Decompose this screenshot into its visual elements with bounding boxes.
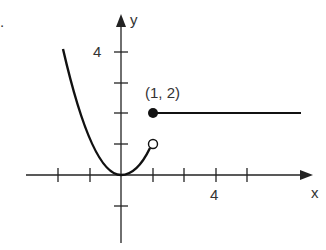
x-axis-label: x: [311, 184, 319, 201]
x-tick-label: 4: [210, 186, 218, 203]
parabola-curve: [63, 49, 150, 175]
stray-dot: .: [0, 13, 4, 30]
y-axis-arrow-icon: [116, 14, 126, 27]
point-label: (1, 2): [145, 84, 180, 101]
open-circle-marker: [149, 140, 158, 149]
closed-dot-marker: [148, 108, 158, 118]
x-axis-arrow-icon: [300, 170, 313, 180]
y-axis-label: y: [130, 11, 138, 28]
piecewise-function-graph: y x 4 4 (1, 2) .: [0, 0, 326, 250]
y-tick-label: 4: [93, 43, 101, 60]
